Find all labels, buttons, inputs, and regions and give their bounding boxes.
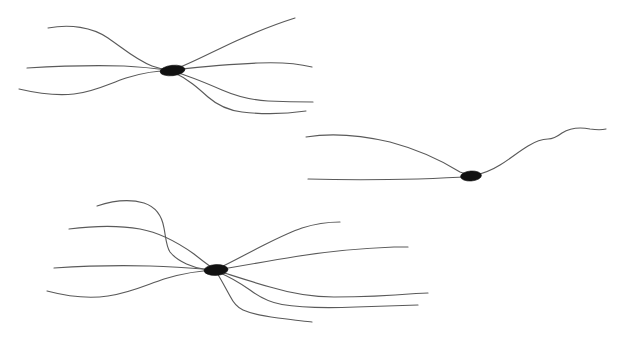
figure-background — [0, 0, 632, 338]
image-canvas — [0, 0, 632, 338]
neuron-tracing-figure — [0, 0, 632, 338]
